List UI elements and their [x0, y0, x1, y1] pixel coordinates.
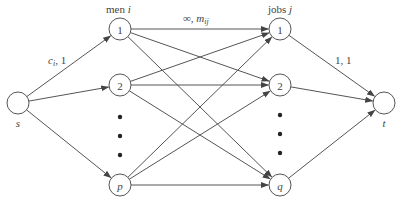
node-label: 1 [277, 24, 283, 36]
node-jq: q [269, 174, 291, 196]
header-variable: i [128, 3, 131, 15]
edges-layer [27, 29, 375, 185]
node-m1: 1 [109, 18, 131, 40]
edge-j2-t [291, 87, 373, 101]
node-circle [7, 92, 29, 114]
jobs-header-word: jobs [267, 3, 289, 15]
node-label: 1 [117, 24, 123, 36]
men-header-word: men [106, 3, 128, 15]
node-m2: 2 [109, 74, 131, 96]
jobs-header-label: jobs j [267, 3, 292, 15]
ellipsis-dot-jobs [278, 151, 282, 155]
node-t: t [373, 92, 395, 129]
edge-s-mp [27, 110, 111, 178]
node-label: 2 [117, 80, 123, 92]
ellipsis-dot-men [118, 115, 122, 119]
node-label: q [277, 180, 283, 192]
node-label: p [116, 180, 123, 192]
edge-jq-t [289, 110, 375, 178]
node-s: s [7, 92, 29, 129]
node-label: t [382, 117, 386, 129]
node-j2: 2 [269, 74, 291, 96]
ellipsis-dot-jobs [278, 132, 282, 136]
node-j1: 1 [269, 18, 291, 40]
nodes-layer: s12p12qt [7, 18, 395, 196]
flow-network-diagram: s12p12qt men i jobs j ci, 1 ∞, mij 1, 1 [0, 0, 399, 202]
edge-j1-t [289, 35, 375, 96]
edge-s-m2 [29, 87, 109, 101]
node-mp: p [109, 174, 131, 196]
node-label: s [16, 117, 20, 129]
sink-edge-label: 1, 1 [335, 54, 352, 66]
ellipsis-dot-jobs [278, 113, 282, 117]
source-edge-label: ci, 1 [48, 54, 66, 68]
middle-edge-label: ∞, mij [183, 12, 210, 26]
ellipsis-dot-men [118, 134, 122, 138]
node-label: 2 [277, 80, 283, 92]
ellipsis-dot-men [118, 153, 122, 157]
edge-s-m1 [27, 36, 111, 97]
men-header-label: men i [106, 3, 131, 15]
node-circle [373, 92, 395, 114]
